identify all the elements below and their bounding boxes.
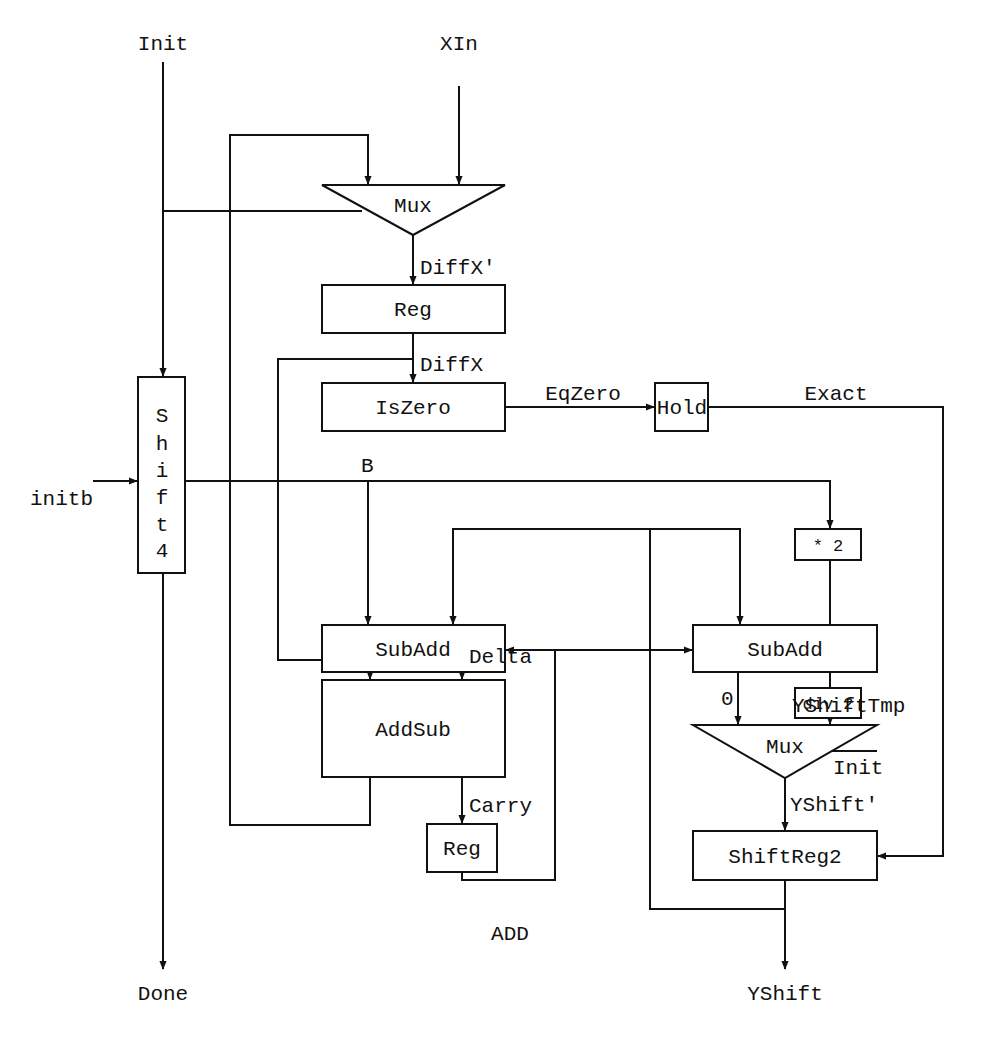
signal-done-label: Done xyxy=(138,983,188,1006)
signal-add-label: ADD xyxy=(491,923,529,946)
signal-eqzero-label: EqZero xyxy=(545,383,621,406)
reg-bottom-label: Reg xyxy=(443,838,481,861)
signal-initb-label: initb xyxy=(30,488,93,511)
addsub-label: AddSub xyxy=(375,719,451,742)
shift4-char-5: 4 xyxy=(156,540,169,563)
signal-b-label: B xyxy=(361,455,374,478)
signal-zero-label: 0 xyxy=(721,688,734,711)
signal-yshift-label: YShift xyxy=(747,983,823,1006)
wire-loop-to-subadd-left xyxy=(453,529,650,624)
mux-bottom-label: Mux xyxy=(766,736,804,759)
hardware-datapath-diagram: Mux Reg IsZero Hold S h i f t 4 * 2 SubA… xyxy=(0,0,989,1055)
signal-yshifttmp-label: YShiftTmp xyxy=(792,695,905,718)
signal-yshift-prime-label: YShift' xyxy=(790,794,878,817)
subadd-left-label: SubAdd xyxy=(375,639,451,662)
mux-top-label: Mux xyxy=(394,195,432,218)
reg-top-label: Reg xyxy=(394,299,432,322)
times2-label: * 2 xyxy=(813,537,844,556)
shift4-char-2: i xyxy=(156,460,169,483)
shift4-char-1: h xyxy=(156,433,169,456)
signal-xin-label: XIn xyxy=(440,33,478,56)
shiftreg2-label: ShiftReg2 xyxy=(728,846,841,869)
signal-carry-label: Carry xyxy=(469,795,532,818)
wire-b xyxy=(185,481,830,528)
signal-delta-label: Delta xyxy=(469,646,532,669)
wire-loop-to-subadd-right xyxy=(650,529,740,624)
signal-init-label: Init xyxy=(138,33,188,56)
signal-diffx-label: DiffX xyxy=(420,354,483,377)
signal-diffx-prime-label: DiffX' xyxy=(420,257,496,280)
iszero-label: IsZero xyxy=(375,397,451,420)
shift4-char-4: t xyxy=(156,514,169,537)
hold-label: Hold xyxy=(657,397,707,420)
shift4-char-3: f xyxy=(156,487,169,510)
signal-exact-label: Exact xyxy=(804,383,867,406)
shift4-char-0: S xyxy=(156,405,169,428)
signal-init-mux2-label: Init xyxy=(833,757,883,780)
subadd-right-label: SubAdd xyxy=(747,639,823,662)
